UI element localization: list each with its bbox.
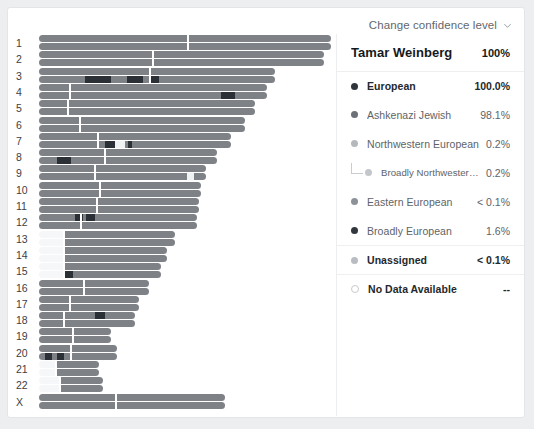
centromere-marker (63, 312, 65, 319)
haplotype-bar (39, 247, 167, 254)
haplotype-bar (39, 149, 217, 156)
ancestry-segment (39, 247, 63, 254)
legend-rows: European100.0%Ashkenazi Jewish98.1%North… (337, 71, 524, 303)
haplotype-bar (39, 361, 99, 368)
haplotype-bar (39, 157, 217, 164)
haplotype-bar (39, 222, 197, 229)
legend-label: European (367, 80, 468, 92)
ancestry-segment (39, 141, 231, 148)
chevron-down-icon (503, 21, 512, 30)
centromere-marker (187, 35, 189, 42)
centromere-marker (115, 402, 117, 409)
ancestry-segment (39, 280, 149, 287)
legend-color-dot-icon (365, 169, 372, 176)
centromere-marker (115, 394, 117, 401)
ancestry-segment (95, 312, 105, 319)
legend-row[interactable]: Broadly European1.6% (337, 216, 524, 245)
ancestry-segment (187, 173, 194, 180)
ancestry-segment (39, 51, 324, 58)
haplotype-bar (39, 165, 206, 172)
haplotype-bar (39, 125, 245, 132)
centromere-marker (80, 222, 82, 229)
ancestry-segment (86, 214, 95, 221)
centromere-marker (63, 231, 65, 238)
haplotype-bar (39, 263, 161, 270)
haplotype-bar (39, 35, 331, 42)
legend-label: Eastern European (367, 196, 471, 208)
haplotype-bar (39, 173, 206, 180)
haplotype-bar (39, 385, 103, 392)
ancestry-segment (63, 239, 175, 246)
ancestry-segment (39, 320, 135, 327)
haplotype-bar (39, 239, 175, 246)
chromosome-label: 5 (16, 102, 34, 115)
chromosome-label: 10 (16, 184, 34, 197)
haplotype-bar (39, 214, 197, 221)
ancestry-segment (55, 361, 99, 368)
centromere-marker (96, 206, 98, 213)
chromosome-row[interactable]: X (8, 393, 338, 414)
haplotype-bar (39, 320, 135, 327)
ancestry-segment (63, 231, 175, 238)
legend-label: No Data Available (368, 283, 497, 295)
legend-row[interactable]: Ashkenazi Jewish98.1% (337, 100, 524, 129)
ancestry-segment (39, 206, 199, 213)
haplotype-bar (39, 402, 225, 409)
ancestry-segment (39, 271, 63, 278)
ancestry-segment (85, 76, 111, 83)
ancestry-segment (64, 271, 73, 278)
ancestry-segment (39, 239, 63, 246)
legend-label: Broadly Northwestern European (381, 167, 480, 178)
chromosome-label: X (16, 396, 34, 409)
ancestry-segment (39, 165, 206, 172)
chromosome-label: 1 (16, 37, 34, 50)
centromere-marker (80, 214, 82, 221)
legend-color-dot-icon (351, 111, 358, 118)
change-confidence-level-button[interactable]: Change confidence level (369, 19, 512, 31)
centromere-marker (63, 247, 65, 254)
ancestry-segment (39, 182, 201, 189)
ancestry-segment (63, 271, 161, 278)
change-confidence-level-label: Change confidence level (369, 19, 497, 31)
chromosome-label: 18 (16, 314, 34, 327)
centromere-marker (69, 304, 71, 311)
haplotype-bar (39, 84, 267, 91)
legend-label: Northwestern European (367, 138, 480, 150)
chromosome-label: 9 (16, 167, 34, 180)
legend-row[interactable]: Eastern European< 0.1% (337, 187, 524, 216)
chromosome-painting: 12345678910111213141516171819202122X (8, 34, 338, 416)
legend-value: 1.6% (486, 225, 510, 237)
ancestry-segment (39, 59, 324, 66)
chromosome-label: 3 (16, 70, 34, 83)
ancestry-segment (39, 312, 135, 319)
legend-row[interactable]: European100.0% (337, 71, 524, 100)
profile-value: 100% (482, 47, 510, 59)
haplotype-bar (39, 255, 167, 262)
chromosome-label: 21 (16, 363, 34, 376)
haplotype-bar (39, 394, 225, 401)
haplotype-bar (39, 206, 199, 213)
ancestry-segment (115, 141, 125, 148)
ancestry-segment (55, 369, 99, 376)
ancestry-segment (39, 263, 63, 270)
legend-value: 98.1% (480, 109, 510, 121)
haplotype-bar (39, 353, 117, 360)
ancestry-segment (39, 385, 59, 392)
centromere-marker (104, 149, 106, 156)
haplotype-bar (39, 304, 139, 311)
legend-row[interactable]: Broadly Northwestern European0.2% (337, 158, 524, 187)
ancestry-segment (39, 173, 206, 180)
legend-row[interactable]: Unassigned< 0.1% (337, 245, 524, 274)
ancestry-segment (39, 304, 139, 311)
legend-color-dot-icon (351, 257, 358, 264)
centromere-marker (152, 59, 154, 66)
legend-value: < 0.1% (477, 254, 510, 266)
centromere-marker (97, 133, 99, 140)
legend-row[interactable]: No Data Available-- (337, 274, 524, 303)
legend-row[interactable]: Northwestern European0.2% (337, 129, 524, 158)
haplotype-bar (39, 59, 324, 66)
legend-label: Ashkenazi Jewish (367, 109, 474, 121)
centromere-marker (72, 336, 74, 343)
centromere-marker (79, 125, 81, 132)
chromosome-label: 15 (16, 265, 34, 278)
